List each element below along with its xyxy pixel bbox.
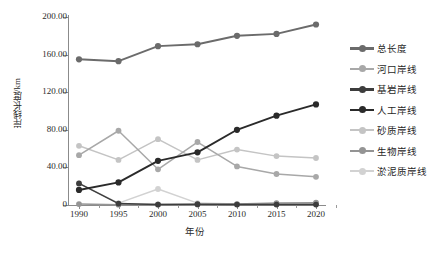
data-point bbox=[76, 56, 82, 62]
legend-label: 总长度 bbox=[377, 41, 407, 55]
legend-label: 砂质岸线 bbox=[377, 123, 417, 137]
series-line bbox=[79, 104, 316, 190]
data-point bbox=[155, 136, 161, 142]
data-point bbox=[313, 202, 319, 208]
data-point bbox=[195, 201, 201, 207]
chart-legend: 总长度河口岸线基岩岸线人工岸线砂质岸线生物岸线淤泥质岸线 bbox=[350, 38, 445, 182]
legend-dot bbox=[359, 168, 366, 175]
legend-item-4[interactable]: 砂质岸线 bbox=[350, 120, 445, 141]
data-point bbox=[115, 179, 121, 185]
legend-dot bbox=[359, 147, 366, 154]
data-point bbox=[274, 171, 280, 177]
data-point bbox=[155, 43, 161, 49]
legend-dot bbox=[359, 106, 366, 113]
data-point bbox=[155, 166, 161, 172]
legend-label: 河口岸线 bbox=[377, 62, 417, 76]
data-point bbox=[313, 174, 319, 180]
series-3 bbox=[76, 101, 319, 193]
data-point bbox=[274, 202, 280, 208]
legend-dot bbox=[359, 65, 366, 72]
data-point bbox=[76, 201, 82, 207]
series-0 bbox=[76, 21, 319, 64]
data-point bbox=[234, 202, 240, 208]
legend-swatch-icon bbox=[350, 146, 374, 156]
data-point bbox=[155, 202, 161, 208]
legend-item-5[interactable]: 生物岸线 bbox=[350, 141, 445, 162]
data-point bbox=[195, 139, 201, 145]
data-point bbox=[234, 33, 240, 39]
data-point bbox=[116, 201, 122, 207]
data-point bbox=[234, 127, 240, 133]
legend-swatch-icon bbox=[350, 43, 374, 53]
data-point bbox=[313, 101, 319, 107]
legend-item-2[interactable]: 基岩岸线 bbox=[350, 79, 445, 100]
legend-swatch-icon bbox=[350, 166, 374, 176]
legend-dot bbox=[359, 45, 366, 52]
legend-label: 生物岸线 bbox=[377, 144, 417, 158]
chart-figure: 岸线长度/km 200.00160.00120.0080.0040.000 19… bbox=[0, 0, 445, 263]
legend-label: 人工岸线 bbox=[377, 103, 417, 117]
data-point bbox=[115, 58, 121, 64]
data-point bbox=[313, 155, 319, 161]
data-point bbox=[155, 158, 161, 164]
data-point bbox=[195, 157, 201, 163]
data-point bbox=[274, 153, 280, 159]
data-point bbox=[116, 128, 122, 134]
legend-label: 基岩岸线 bbox=[377, 82, 417, 96]
data-point bbox=[76, 152, 82, 158]
legend-swatch-icon bbox=[350, 125, 374, 135]
x-axis-title: 年份 bbox=[160, 224, 230, 238]
data-point bbox=[155, 186, 161, 192]
data-point bbox=[234, 164, 240, 170]
legend-item-0[interactable]: 总长度 bbox=[350, 38, 445, 59]
legend-swatch-icon bbox=[350, 64, 374, 74]
data-point bbox=[313, 21, 319, 27]
data-point bbox=[234, 147, 240, 153]
data-point bbox=[76, 143, 82, 149]
data-point bbox=[273, 31, 279, 37]
data-point bbox=[76, 180, 82, 186]
legend-item-6[interactable]: 淤泥质岸线 bbox=[350, 161, 445, 182]
data-point bbox=[273, 113, 279, 119]
data-point bbox=[76, 187, 82, 193]
legend-item-3[interactable]: 人工岸线 bbox=[350, 100, 445, 121]
data-point bbox=[116, 157, 122, 163]
data-point bbox=[194, 41, 200, 47]
legend-dot bbox=[359, 86, 366, 93]
legend-dot bbox=[359, 127, 366, 134]
legend-swatch-icon bbox=[350, 84, 374, 94]
data-point bbox=[194, 149, 200, 155]
legend-swatch-icon bbox=[350, 105, 374, 115]
legend-label: 淤泥质岸线 bbox=[377, 164, 427, 178]
legend-item-1[interactable]: 河口岸线 bbox=[350, 59, 445, 80]
